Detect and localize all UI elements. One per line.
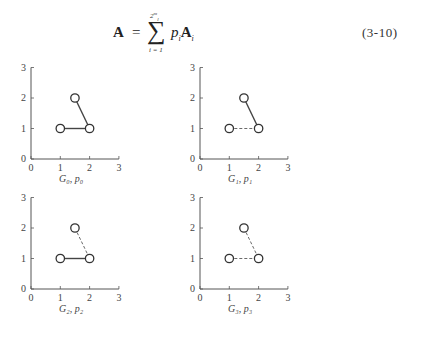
equals-sign: = — [132, 24, 140, 41]
svg-text:2: 2 — [21, 92, 26, 103]
graph-edge-solid — [244, 98, 259, 129]
svg-text:1: 1 — [190, 253, 195, 264]
graph-edge-dashed — [244, 228, 259, 259]
svg-text:3: 3 — [21, 62, 26, 73]
svg-text:1: 1 — [58, 162, 63, 173]
svg-text:1: 1 — [21, 123, 26, 134]
svg-text:0: 0 — [21, 153, 26, 164]
svg-text:2: 2 — [21, 222, 26, 233]
graph-node — [56, 254, 64, 262]
graph-node — [240, 94, 248, 102]
svg-text:0: 0 — [29, 292, 34, 303]
equation-rhs: piAi — [171, 24, 194, 43]
plot-g3: 01230123G₃, p₃ — [179, 194, 319, 324]
svg-text:1: 1 — [190, 123, 195, 134]
graph-node — [85, 124, 93, 132]
plot-caption: G₂, p₂ — [59, 303, 83, 314]
graph-node — [56, 124, 64, 132]
svg-text:0: 0 — [190, 153, 195, 164]
svg-text:2: 2 — [87, 162, 92, 173]
svg-text:0: 0 — [198, 292, 203, 303]
svg-text:1: 1 — [21, 253, 26, 264]
graph-node — [254, 124, 262, 132]
svg-text:3: 3 — [21, 192, 26, 203]
svg-text:3: 3 — [116, 292, 121, 303]
plot-caption: G₃, p₃ — [228, 303, 252, 314]
svg-text:0: 0 — [29, 162, 34, 173]
svg-text:3: 3 — [190, 62, 195, 73]
matrix-sub: i — [192, 34, 194, 43]
graph-edge-dashed — [75, 228, 90, 259]
svg-text:3: 3 — [285, 292, 290, 303]
graph-node — [225, 254, 233, 262]
svg-text:1: 1 — [227, 162, 232, 173]
plot-g0: 01230123G₀, p₀ — [10, 64, 150, 194]
graph-node — [254, 254, 262, 262]
svg-text:3: 3 — [190, 192, 195, 203]
svg-text:3: 3 — [285, 162, 290, 173]
equation-3-10: A = 2ml ∑ i = 1 piAi (3-10) — [0, 8, 427, 52]
svg-text:2: 2 — [256, 292, 261, 303]
graph-node — [85, 254, 93, 262]
svg-text:3: 3 — [116, 162, 121, 173]
graph-node — [240, 224, 248, 232]
svg-text:2: 2 — [256, 162, 261, 173]
cropped-text-line — [0, 0, 427, 6]
sum-symbol: ∑ — [147, 18, 166, 44]
graph-edge-solid — [75, 98, 90, 129]
graph-node — [225, 124, 233, 132]
equation-lhs: A — [113, 24, 124, 41]
equation-number: (3-10) — [362, 25, 398, 41]
graph-node — [71, 94, 79, 102]
svg-text:0: 0 — [198, 162, 203, 173]
matrix: A — [181, 24, 192, 40]
plot-caption: G₀, p₀ — [59, 173, 83, 184]
plot-g1: 01230123G₁, p₁ — [179, 64, 319, 194]
graph-node — [71, 224, 79, 232]
svg-text:2: 2 — [190, 222, 195, 233]
coeff: p — [171, 24, 179, 40]
svg-text:1: 1 — [227, 292, 232, 303]
plot-g2: 01230123G₂, p₂ — [10, 194, 150, 324]
svg-text:1: 1 — [58, 292, 63, 303]
svg-text:0: 0 — [190, 283, 195, 294]
sum-lower-limit: i = 1 — [149, 46, 163, 54]
svg-text:2: 2 — [87, 292, 92, 303]
svg-text:2: 2 — [190, 92, 195, 103]
plot-caption: G₁, p₁ — [228, 173, 252, 184]
svg-text:0: 0 — [21, 283, 26, 294]
